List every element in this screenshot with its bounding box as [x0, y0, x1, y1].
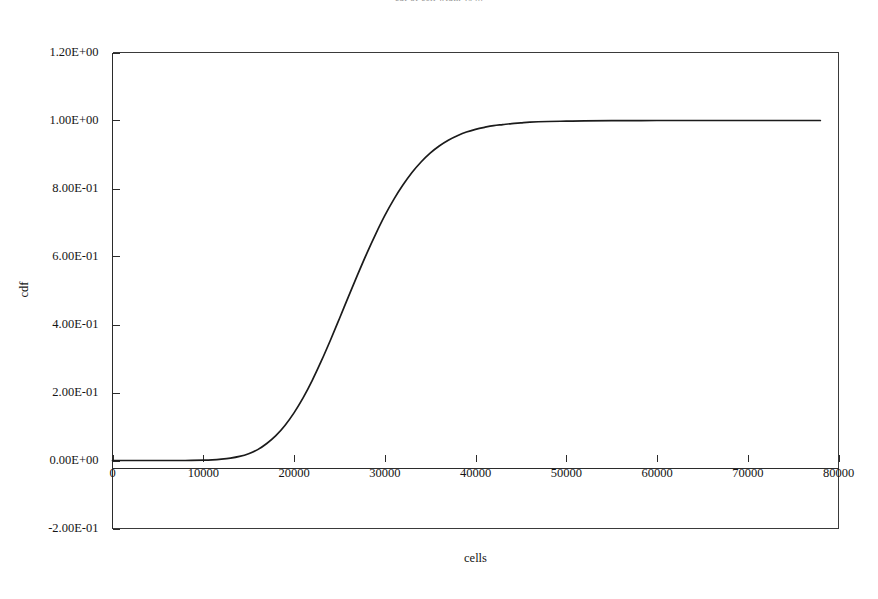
x-tick-label: 70000	[703, 466, 793, 481]
y-tick-label: 4.00E-01	[0, 317, 99, 332]
data-series-layer	[113, 120, 821, 460]
x-tick-label: 10000	[158, 466, 248, 481]
plot-svg	[0, 0, 878, 599]
y-tick-label: 1.20E+00	[0, 45, 99, 60]
x-tick-label: 20000	[249, 466, 339, 481]
y-tick-label: 2.00E-01	[0, 385, 99, 400]
tick-marks	[113, 54, 840, 530]
y-axis-title: cdf	[17, 279, 32, 299]
cdf-curve	[113, 120, 821, 460]
x-tick-label: 50000	[521, 466, 611, 481]
x-tick-label: 80000	[794, 466, 878, 481]
y-tick-label: -2.00E-01	[0, 521, 99, 536]
x-tick-label: 60000	[612, 466, 702, 481]
x-tick-label: 30000	[340, 466, 430, 481]
chart-container: cdf of cell width vs ... -2.00E-010.00E+…	[0, 0, 878, 599]
y-tick-label: 1.00E+00	[0, 113, 99, 128]
x-tick-label: 0	[68, 466, 158, 481]
x-tick-label: 40000	[431, 466, 521, 481]
plot-frame	[113, 53, 839, 529]
y-tick-label: 6.00E-01	[0, 249, 99, 264]
y-tick-label: 8.00E-01	[0, 181, 99, 196]
x-axis-title: cells	[416, 551, 536, 566]
